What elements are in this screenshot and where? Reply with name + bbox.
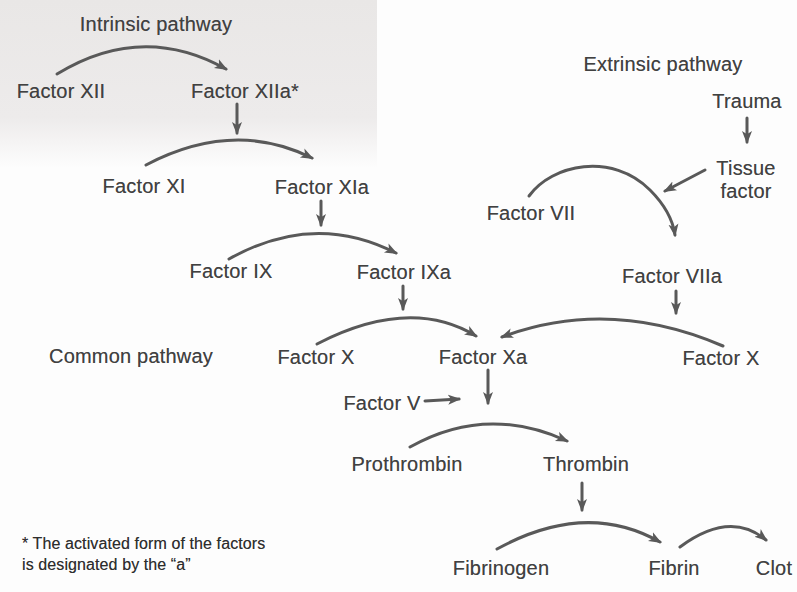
node-trauma: Trauma	[712, 90, 781, 113]
node-fibrinogen: Fibrinogen	[453, 557, 550, 580]
node-factor-xa: Factor Xa	[439, 346, 528, 369]
footnote-line-2: is designated by the “a”	[22, 554, 265, 575]
node-factor-v: Factor V	[343, 392, 420, 415]
node-thrombin: Thrombin	[543, 453, 629, 476]
node-clot: Clot	[756, 557, 792, 580]
node-prothrombin: Prothrombin	[351, 453, 462, 476]
footnote-line-1: * The activated form of the factors	[22, 533, 265, 554]
arrow-factor-xii-to-factor-xiia	[57, 47, 226, 74]
arrow-fibrinogen-to-fibrin	[497, 523, 660, 549]
node-fibrin: Fibrin	[648, 557, 699, 580]
node-factor-x-right: Factor X	[682, 347, 759, 370]
node-factor-ix: Factor IX	[190, 260, 273, 283]
arrow-tissue-factor-to-curve	[665, 170, 705, 191]
arrow-fibrin-to-clot	[680, 527, 766, 547]
common-pathway-title: Common pathway	[49, 345, 213, 368]
footnote: * The activated form of the factors is d…	[22, 533, 265, 575]
node-factor-xi: Factor XI	[103, 175, 186, 198]
node-tissue-factor: Tissue factor	[712, 157, 780, 203]
arrow-prothrombin-to-thrombin	[410, 424, 567, 447]
extrinsic-pathway-title: Extrinsic pathway	[583, 53, 742, 76]
node-factor-xia: Factor XIa	[275, 176, 369, 199]
arrow-layer	[0, 0, 797, 592]
arrow-factor-x-left-to-factor-xa	[317, 318, 476, 344]
intrinsic-pathway-title: Intrinsic pathway	[80, 13, 232, 36]
node-factor-xii: Factor XII	[17, 80, 106, 103]
coagulation-cascade-diagram: Intrinsic pathway Extrinsic pathway Comm…	[0, 0, 797, 592]
arrow-factor-v-to-xa-line	[425, 399, 459, 401]
node-factor-xiia: Factor XIIa*	[191, 80, 299, 103]
node-factor-viia: Factor VIIa	[622, 265, 722, 288]
node-factor-x-left: Factor X	[277, 346, 354, 369]
node-factor-ixa: Factor IXa	[357, 261, 451, 284]
arrow-factor-xi-to-factor-xia	[146, 140, 312, 165]
node-factor-vii: Factor VII	[487, 202, 576, 225]
arrow-factor-ix-to-factor-ixa	[229, 233, 396, 259]
arrow-factor-x-right-to-factor-xa	[502, 319, 723, 346]
